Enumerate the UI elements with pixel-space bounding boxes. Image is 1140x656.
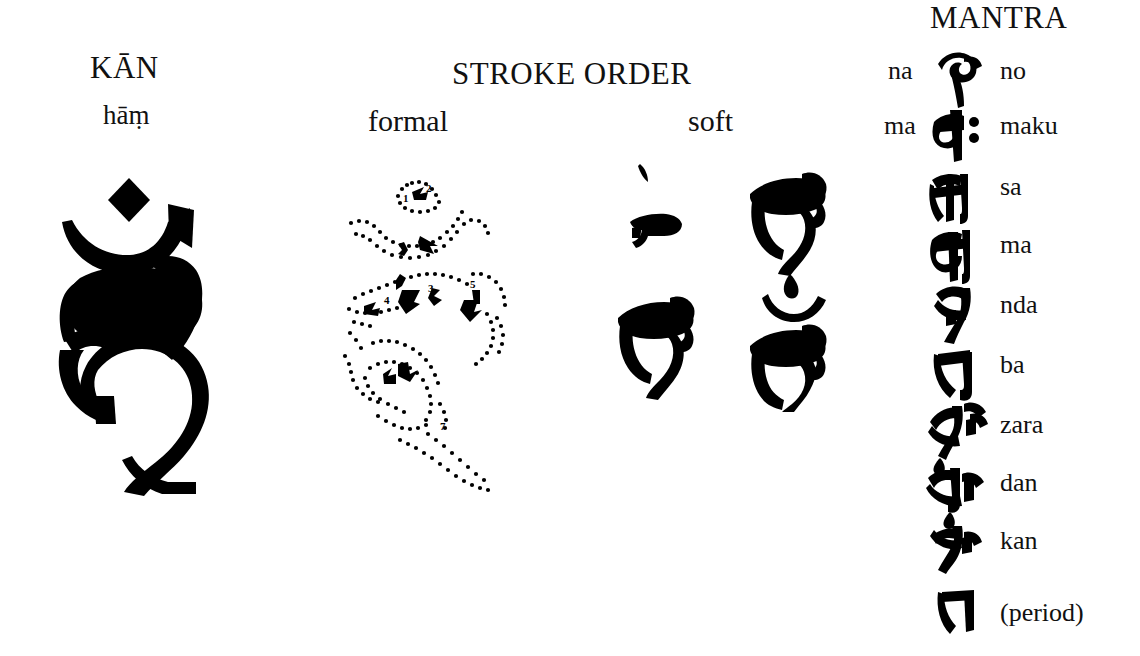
- siddham-maku-glyph: [930, 104, 988, 166]
- svg-text:7: 7: [440, 420, 446, 432]
- siddham-no-glyph: [934, 48, 988, 110]
- stroke-order-formal-label: formal: [368, 106, 448, 136]
- siddham-nda-glyph: [930, 282, 986, 346]
- mantra-row-8-reading: kan: [1000, 528, 1038, 554]
- siddham-ham-large-glyph: [44, 160, 264, 510]
- svg-text:2: 2: [426, 182, 432, 194]
- siddham-kan-glyph: [928, 512, 988, 576]
- mantra-row-1-reading: maku: [1000, 113, 1058, 139]
- mantra-row-2-reading: sa: [1000, 174, 1022, 200]
- siddham-zara-glyph: [926, 400, 990, 462]
- mantra-row-7-reading: dan: [1000, 470, 1038, 496]
- soft-stage-4-glyph: [744, 272, 854, 412]
- mantra-row-4-reading: nda: [1000, 292, 1038, 318]
- siddham-reference-sheet: KĀN hāṃ: [0, 0, 1140, 656]
- siddham-ba-glyph: [932, 342, 986, 404]
- svg-text:1: 1: [403, 192, 409, 204]
- mantra-row-5-reading: ba: [1000, 352, 1025, 378]
- svg-text:5: 5: [470, 278, 476, 290]
- soft-stage-2-glyph: [744, 158, 854, 288]
- siddham-ma-glyph: [928, 224, 984, 286]
- seed-syllable-romanization: hāṃ: [103, 102, 150, 129]
- mantra-title: MANTRA: [930, 2, 1067, 33]
- page-title: KĀN: [90, 52, 159, 83]
- formal-stroke-diagram: 1 2: [340, 178, 550, 508]
- siddham-period-glyph: [938, 586, 984, 638]
- mantra-row-0-prefix: na: [888, 58, 913, 84]
- soft-stage-3-glyph: [612, 282, 722, 412]
- mantra-row-9-reading: (period): [1000, 600, 1084, 626]
- mantra-row-3-reading: ma: [1000, 232, 1032, 258]
- siddham-dan-glyph: [924, 456, 988, 520]
- stroke-order-soft-label: soft: [688, 106, 733, 136]
- stroke-order-title: STROKE ORDER: [452, 58, 691, 89]
- siddham-sa-glyph: [928, 166, 984, 228]
- soft-stage-1-glyph: [612, 156, 722, 276]
- mantra-row-0-reading: no: [1000, 58, 1026, 84]
- mantra-row-1-prefix: ma: [884, 113, 916, 139]
- svg-text:4: 4: [384, 294, 390, 306]
- mantra-row-6-reading: zara: [1000, 412, 1043, 438]
